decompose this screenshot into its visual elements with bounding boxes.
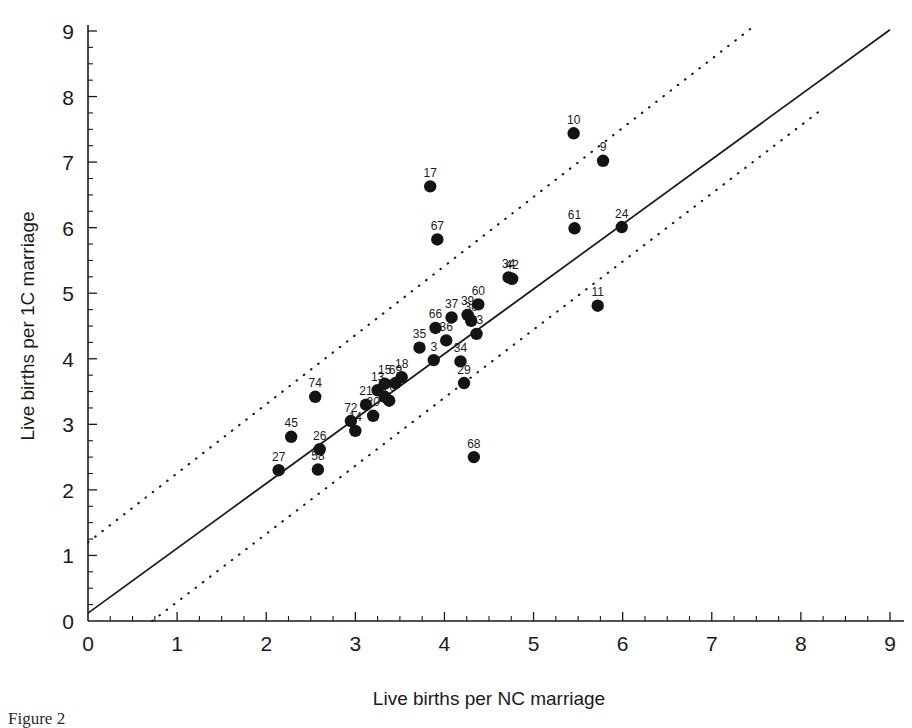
- data-point-label: 20: [366, 395, 380, 409]
- data-point-label: 17: [424, 166, 438, 180]
- data-point-label: 61: [568, 208, 582, 222]
- data-point-label: 37: [445, 297, 459, 311]
- x-axis-tick-label: 2: [260, 632, 272, 655]
- data-point[interactable]: [468, 451, 480, 463]
- x-axis-tick-label: 6: [617, 632, 629, 655]
- data-point-label: 27: [272, 450, 286, 464]
- x-axis-tick-label: 8: [795, 632, 807, 655]
- y-axis-tick-label: 1: [62, 544, 74, 567]
- data-point[interactable]: [367, 410, 379, 422]
- scatter-plot: 01234567890123456789Live births per NC m…: [0, 0, 912, 728]
- data-point[interactable]: [383, 395, 395, 407]
- regression-line: [88, 30, 890, 613]
- data-point[interactable]: [470, 328, 482, 340]
- data-point[interactable]: [313, 443, 325, 455]
- x-axis-tick-label: 5: [528, 632, 540, 655]
- data-point-label: 10: [567, 113, 581, 127]
- data-point-label: 35: [413, 327, 427, 341]
- data-point[interactable]: [424, 180, 436, 192]
- data-point[interactable]: [567, 127, 579, 139]
- data-point[interactable]: [472, 298, 484, 310]
- y-axis-tick-label: 7: [62, 151, 74, 174]
- x-axis-tick-label: 9: [884, 632, 896, 655]
- y-axis-tick-label: 9: [62, 20, 74, 43]
- y-axis-tick-label: 2: [62, 479, 74, 502]
- lower-confidence-band: [152, 108, 823, 621]
- x-axis-title: Live births per NC marriage: [373, 688, 605, 709]
- data-point[interactable]: [597, 155, 609, 167]
- figure-caption: Figure 2: [8, 709, 65, 728]
- data-point[interactable]: [272, 464, 284, 476]
- x-axis-tick-label: 0: [82, 632, 94, 655]
- data-point[interactable]: [312, 463, 324, 475]
- x-axis-tick-label: 7: [706, 632, 718, 655]
- data-point[interactable]: [413, 341, 425, 353]
- data-point[interactable]: [309, 391, 321, 403]
- data-point-label: 68: [467, 437, 481, 451]
- data-point-label: 24: [615, 207, 629, 221]
- data-point[interactable]: [445, 311, 457, 323]
- data-point-label: 67: [431, 219, 445, 233]
- data-point[interactable]: [592, 299, 604, 311]
- data-point[interactable]: [568, 222, 580, 234]
- y-axis-tick-label: 3: [62, 413, 74, 436]
- data-point-label: 70: [383, 380, 397, 394]
- data-point-label: 74: [309, 376, 323, 390]
- y-axis-tick-label: 0: [62, 610, 74, 633]
- x-axis-tick-label: 1: [171, 632, 183, 655]
- data-point[interactable]: [349, 425, 361, 437]
- data-point-label: 42: [505, 258, 519, 272]
- data-point[interactable]: [431, 233, 443, 245]
- y-axis-tick-label: 8: [62, 86, 74, 109]
- data-point-label: 34: [454, 341, 468, 355]
- y-axis-tick-label: 5: [62, 282, 74, 305]
- y-axis-tick-label: 4: [62, 348, 74, 371]
- data-point-label: 45: [284, 416, 298, 430]
- data-point-label: 26: [313, 429, 327, 443]
- data-point[interactable]: [458, 377, 470, 389]
- data-point-label: 33: [470, 313, 484, 327]
- data-point-label: 18: [395, 357, 409, 371]
- data-point-label: 14: [349, 410, 363, 424]
- data-point-label: 9: [600, 140, 607, 154]
- data-point-label: 29: [457, 363, 471, 377]
- data-point[interactable]: [285, 431, 297, 443]
- data-point[interactable]: [440, 334, 452, 346]
- x-axis-tick-label: 3: [349, 632, 361, 655]
- y-axis-title: Live births per 1C marriage: [17, 211, 38, 440]
- x-axis-tick-label: 4: [439, 632, 451, 655]
- data-point-label: 11: [591, 285, 604, 299]
- figure-root: 01234567890123456789Live births per NC m…: [0, 0, 912, 728]
- data-point[interactable]: [395, 371, 407, 383]
- upper-confidence-band: [88, 28, 752, 543]
- data-point[interactable]: [428, 354, 440, 366]
- data-point-label: 60: [472, 284, 486, 298]
- data-point[interactable]: [506, 273, 518, 285]
- data-point[interactable]: [616, 221, 628, 233]
- y-axis-tick-label: 6: [62, 217, 74, 240]
- data-point-label: 3: [430, 340, 437, 354]
